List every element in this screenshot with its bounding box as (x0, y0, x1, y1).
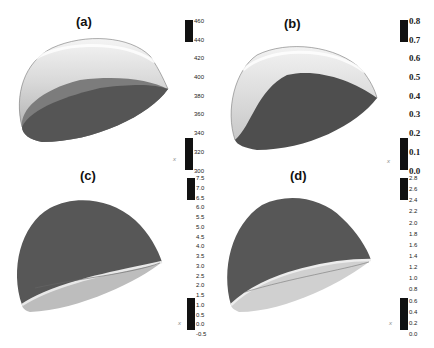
panel-a: (a) 460 440 420 400 380 360 340 320 300 … (0, 0, 217, 174)
panel-d-colorbar-bottom (400, 298, 408, 330)
panel-b-colorbar-top (400, 20, 408, 42)
panel-c: (c) 7.5 7.0 6.5 6.0 5.5 5.0 4.5 4.0 3.5 … (0, 170, 217, 348)
panel-b: (b) 0.8 0.7 0.6 0.5 0.4 0.3 0.2 0.1 0.0 … (217, 0, 434, 174)
panel-b-colorbar-bottom (400, 138, 408, 170)
panel-d-colorbar-top (400, 178, 408, 200)
panel-b-axis-label: x (387, 158, 390, 164)
panel-d: (d) 2.8 2.6 2.4 2.2 2.0 1.8 1.6 1.4 1.2 … (217, 170, 434, 348)
panel-c-axis-label: x (178, 320, 181, 326)
panel-a-colorbar-bottom (185, 138, 193, 170)
panel-c-colorbar-bottom (187, 298, 195, 330)
panel-a-axis-label: x (173, 156, 176, 162)
panel-c-colorbar-top (187, 178, 195, 200)
panel-c-surface (0, 170, 217, 348)
panel-a-colorbar-top (185, 20, 193, 42)
panel-d-axis-label: x (389, 320, 392, 326)
